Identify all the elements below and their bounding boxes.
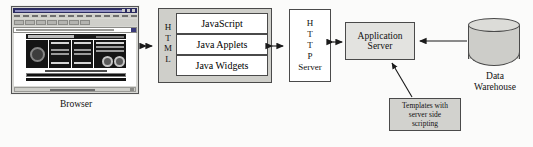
address-bar-go-icon (131, 28, 136, 32)
page-panel-3 (72, 40, 94, 68)
toolbar-forward-icon (25, 20, 35, 25)
page-banner-nav (96, 36, 124, 38)
page-panel-row (26, 40, 126, 68)
java-widgets-box: Java Widgets (176, 55, 268, 76)
connector-templates-to-app (392, 63, 412, 97)
medal-icon-2 (114, 56, 125, 67)
dw-line-1: Data (462, 71, 528, 82)
toolbar-refresh-icon (47, 20, 57, 25)
html-letter-t: T (162, 33, 174, 44)
browser-status-bar (14, 87, 136, 92)
http-word-server: Server (298, 62, 322, 73)
cylinder-bottom (468, 52, 520, 66)
templates-line-1: Templates with (402, 101, 448, 110)
toolbar-stop-icon (36, 20, 46, 25)
page-text-lines (26, 70, 126, 81)
toolbar-home-icon (58, 20, 68, 25)
toolbar-print-icon (80, 20, 90, 25)
http-letter-h: H (307, 18, 314, 29)
browser-viewport (14, 33, 136, 86)
status-bar-text (50, 89, 96, 91)
html-label: H T M L (162, 22, 174, 64)
html-letter-l: L (162, 54, 174, 65)
toolbar-search-icon (69, 20, 79, 25)
browser-title-bar (13, 8, 137, 13)
page-highlight-bar (26, 73, 126, 77)
http-server-box: H T T P Server (289, 9, 331, 82)
page-panel-4 (94, 40, 126, 68)
page-panel-2 (49, 40, 71, 68)
status-bar-zone-icon (130, 88, 134, 91)
page-banner (26, 34, 126, 39)
javascript-box: JavaScript (176, 13, 268, 34)
page-panel-seal (26, 40, 48, 68)
toolbar-back-icon (14, 20, 24, 25)
application-server-box: Application Server (345, 22, 415, 60)
browser-window-icon (11, 6, 139, 94)
http-letter-t1: T (307, 29, 313, 40)
http-letter-p: P (307, 51, 312, 62)
cylinder-top (468, 18, 520, 32)
browser-menu-bar (13, 14, 137, 18)
html-letter-m: M (162, 43, 174, 54)
page-highlight-bar-2 (26, 78, 126, 81)
dw-line-2: Warehouse (462, 82, 528, 93)
templates-line-2: server side (402, 110, 448, 119)
browser-toolbar (13, 19, 137, 26)
http-letter-t2: T (307, 40, 313, 51)
medal-icon-1 (102, 56, 113, 67)
diagram-canvas: Browser H T M L JavaScript Java Applets … (0, 0, 533, 147)
java-applets-box: Java Applets (176, 34, 268, 55)
browser-window-buttons (122, 9, 136, 12)
page-banner-title (28, 35, 74, 38)
medal-images (102, 56, 125, 67)
browser-caption: Browser (36, 99, 116, 110)
seal-emblem-icon (30, 47, 45, 62)
web-page-content (26, 34, 126, 84)
browser-title-text (15, 10, 122, 12)
database-cylinder-icon (468, 18, 520, 66)
address-bar-text (16, 29, 114, 31)
app-server-line-1: Application (358, 31, 403, 42)
app-server-line-2: Server (358, 41, 403, 52)
templates-box: Templates with server side scripting (389, 98, 461, 131)
html-letter-h: H (162, 22, 174, 33)
templates-line-3: scripting (402, 119, 448, 128)
data-warehouse-caption: Data Warehouse (462, 71, 528, 92)
